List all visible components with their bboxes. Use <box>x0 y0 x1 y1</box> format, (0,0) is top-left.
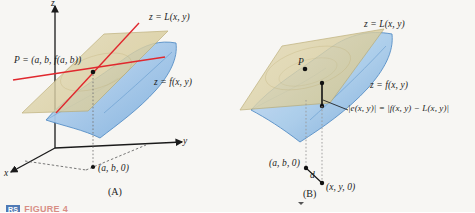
axis-label-y-a: y <box>183 136 187 146</box>
distance-label-b: d <box>310 170 315 180</box>
figure-caption-text: FIGURE 4 <box>24 204 68 212</box>
point-p-marker-a <box>91 70 96 75</box>
point-p-label-a: P = (a, b, f(a, b)) <box>14 55 81 65</box>
base-point-marker-a <box>91 165 95 169</box>
panel-b-caption: (B) <box>303 188 316 199</box>
figure-badge: RS <box>6 205 20 213</box>
panel-b-graphics <box>240 29 392 205</box>
figure-page: z y x z = L(x, y) z = f(x, y) P = (a, b,… <box>0 0 475 212</box>
plane-label-a: z = L(x, y) <box>149 12 190 22</box>
base-point-label-b: (a, b, 0) <box>269 158 300 168</box>
panel-a-graphics <box>11 6 182 172</box>
axis-label-x-a: x <box>4 168 8 178</box>
point-p-label-b: P <box>298 57 304 67</box>
error-label-b: |e(x, y)| = |f(x, y) − L(x, y)| <box>348 103 449 113</box>
axis-tick-b <box>298 202 304 205</box>
base-point-label-a: (a, b, 0) <box>98 163 129 173</box>
panel-a-caption: (A) <box>108 186 122 197</box>
surface-label-b: z = f(x, y) <box>370 80 408 90</box>
plane-label-b: z = L(x, y) <box>364 19 405 29</box>
surface-label-a: z = f(x, y) <box>154 77 192 87</box>
sample-point-label-b: (x, y, 0) <box>326 182 355 192</box>
point-p-marker-b <box>303 67 308 72</box>
axis-label-z-a: z <box>51 0 55 8</box>
error-top-marker-b <box>320 81 324 85</box>
x-axis-a <box>11 148 55 172</box>
y-axis-a <box>55 142 182 148</box>
figure-caption: RS FIGURE 4 <box>6 204 68 212</box>
